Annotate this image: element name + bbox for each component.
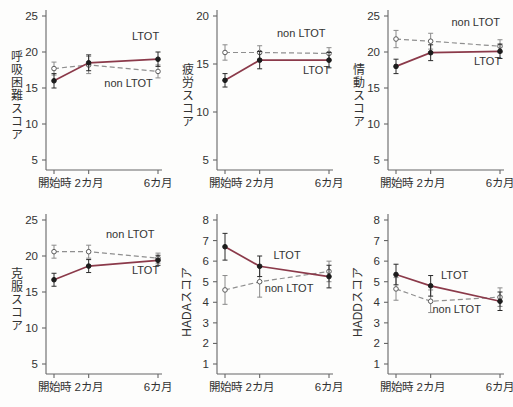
chart-panel-mastery-score: 克服スコア 252015105開始時2カ月6カ月non LTOTLTOT — [0, 204, 171, 407]
y-tick-label: 4 — [203, 296, 210, 308]
data-point — [156, 69, 161, 74]
series-label: LTOT — [441, 269, 468, 281]
data-point — [394, 64, 399, 69]
data-point — [428, 50, 433, 55]
x-tick-label: 開始時 — [209, 176, 243, 189]
y-tick-label: 7 — [374, 235, 380, 247]
y-tick-label: 6 — [203, 255, 209, 267]
x-tick-label: 2カ月 — [74, 177, 102, 189]
series-label: non LTOT — [104, 77, 153, 89]
x-tick-label: 開始時 — [38, 176, 72, 189]
y-tick-label: 5 — [374, 276, 380, 288]
y-tick-label: 15 — [25, 82, 38, 94]
data-point — [86, 61, 91, 66]
data-point — [394, 272, 399, 277]
y-tick-label: 5 — [32, 358, 38, 370]
data-point — [257, 264, 262, 269]
series-label: LTOT — [274, 249, 301, 261]
x-tick-label: 6カ月 — [315, 177, 343, 189]
y-tick-label: 1 — [374, 358, 380, 370]
data-point — [257, 279, 262, 284]
y-tick-label: 10 — [25, 118, 38, 130]
data-point — [223, 244, 228, 249]
data-point — [394, 287, 399, 292]
x-tick-label: 2カ月 — [416, 381, 444, 393]
y-tick-label: 5 — [203, 276, 209, 288]
y-tick-label: 5 — [203, 154, 209, 166]
x-tick-label: 6カ月 — [144, 381, 172, 393]
data-point — [327, 274, 332, 279]
y-tick-label: 15 — [367, 82, 380, 94]
series-label: LTOT — [132, 30, 159, 42]
plot-area: 252015105開始時2カ月6カ月non LTOTLTOT — [0, 0, 171, 203]
x-tick-label: 6カ月 — [486, 381, 513, 393]
x-tick-label: 開始時 — [38, 380, 72, 393]
y-tick-label: 4 — [374, 296, 381, 308]
series-line-non-ltot — [225, 52, 329, 53]
x-tick-label: 2カ月 — [245, 381, 273, 393]
y-tick-label: 5 — [32, 154, 38, 166]
data-point — [223, 78, 228, 83]
chart-panel-dyspnea-score: 呼吸困難スコア 252015105開始時2カ月6カ月non LTOTLTOT — [0, 0, 171, 203]
y-tick-label: 3 — [203, 317, 209, 329]
y-tick-label: 25 — [25, 10, 38, 22]
series-label: LTOT — [303, 64, 330, 76]
y-tick-label: 7 — [203, 235, 209, 247]
series-line-non-ltot — [396, 289, 500, 301]
y-tick-label: 10 — [367, 118, 380, 130]
series-label: non LTOT — [451, 16, 500, 28]
series-line-non-ltot — [54, 65, 158, 71]
data-point — [223, 288, 228, 293]
data-point — [498, 49, 503, 54]
x-tick-label: 2カ月 — [245, 177, 273, 189]
data-point — [156, 57, 161, 62]
series-line-non-ltot — [54, 252, 158, 258]
data-point — [52, 79, 57, 84]
plot-area: 252015105開始時2カ月6カ月non LTOTLTOT — [342, 0, 513, 203]
y-tick-label: 20 — [196, 10, 209, 22]
y-tick-label: 10 — [196, 106, 209, 118]
y-tick-label: 20 — [25, 46, 38, 58]
data-point — [86, 264, 91, 269]
y-tick-label: 15 — [25, 286, 38, 298]
plot-area: 2015105開始時2カ月6カ月non LTOTLTOT — [171, 0, 342, 203]
data-point — [428, 284, 433, 289]
data-point — [52, 277, 57, 282]
plot-area: 252015105開始時2カ月6カ月non LTOTLTOT — [0, 204, 171, 407]
data-point — [156, 258, 161, 263]
x-tick-label: 6カ月 — [144, 177, 172, 189]
data-point — [52, 66, 57, 71]
y-tick-label: 2 — [374, 337, 380, 349]
data-point — [394, 37, 399, 42]
data-point — [52, 249, 57, 254]
x-tick-label: 2カ月 — [416, 177, 444, 189]
data-point — [86, 249, 91, 254]
y-tick-label: 6 — [374, 255, 380, 267]
y-tick-label: 15 — [196, 58, 209, 70]
y-tick-label: 8 — [374, 214, 380, 226]
series-label: non LTOT — [277, 27, 326, 39]
y-tick-label: 10 — [25, 322, 38, 334]
chart-panel-had-d-score: HADDスコア 87654321開始時2カ月6カ月non LTOTLTOT — [342, 204, 513, 407]
y-tick-label: 25 — [367, 10, 380, 22]
x-tick-label: 開始時 — [380, 380, 414, 393]
y-tick-label: 20 — [25, 250, 38, 262]
y-tick-label: 1 — [203, 358, 209, 370]
x-tick-label: 開始時 — [209, 380, 243, 393]
y-tick-label: 20 — [367, 46, 380, 58]
data-point — [428, 39, 433, 44]
chart-panel-fatigue-score: 疲労スコア 2015105開始時2カ月6カ月non LTOTLTOT — [171, 0, 342, 203]
series-label: LTOT — [132, 264, 159, 276]
figure-ltot-score-charts: 呼吸困難スコア 252015105開始時2カ月6カ月non LTOTLTOT 疲… — [0, 0, 513, 407]
data-point — [327, 58, 332, 63]
series-label: LTOT — [474, 55, 501, 67]
series-label: non LTOT — [432, 303, 481, 315]
plot-area: 87654321開始時2カ月6カ月non LTOTLTOT — [171, 204, 342, 407]
data-point — [257, 58, 262, 63]
y-tick-label: 2 — [203, 337, 209, 349]
data-point — [498, 299, 503, 304]
series-label: non LTOT — [265, 282, 314, 294]
data-point — [223, 50, 228, 55]
chart-panel-had-a-score: HADAスコア 87654321開始時2カ月6カ月non LTOTLTOT — [171, 204, 342, 407]
series-line-non-ltot — [396, 39, 500, 46]
